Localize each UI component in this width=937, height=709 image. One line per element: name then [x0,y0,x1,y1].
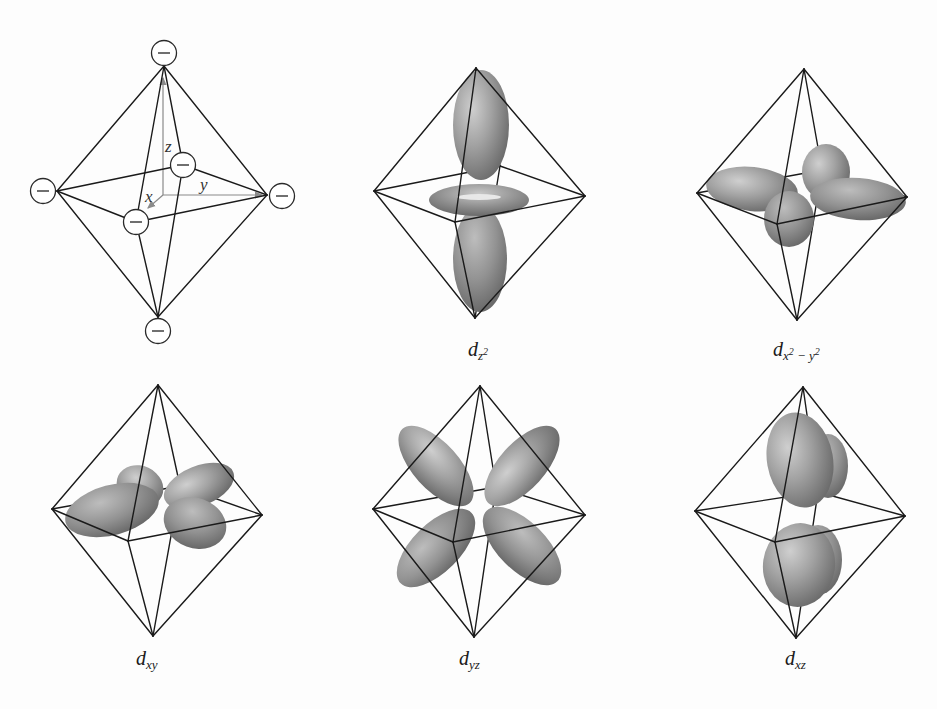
panel-dyz [373,386,585,637]
charge-right [270,184,295,209]
panel-dxz [695,387,905,638]
charge-left [31,179,56,204]
octahedron-back-edges [373,386,585,637]
label-dxy: dxy [136,647,158,673]
label-dxz: dxz [785,647,806,673]
dyz-orbital [384,413,575,600]
panel-dxy [52,385,262,636]
lobe-lower-left [384,496,489,601]
d-orbital-octahedral-diagram: z y x [0,0,937,709]
label-dx2-y2: dx2 − y2 [773,338,820,364]
panel-dz2 [374,68,585,318]
label-dyz: dyz [459,647,480,673]
z-axis-label: z [164,137,172,156]
x-axis-label: x [144,187,153,206]
dxz-orbital [758,407,848,612]
charge-back [171,153,196,178]
lobe-upper-left [385,413,486,518]
panel-ligand-charges: z y x [31,41,295,344]
charge-top [152,41,177,66]
lobe-lower [453,206,507,312]
charge-front [124,210,149,235]
panel-dx2-y2 [697,69,907,320]
lobe-front [764,191,814,247]
charge-bottom [146,319,171,344]
lobe-lower-right [470,494,575,599]
y-axis-label: y [198,175,208,194]
torus-hole [457,194,501,200]
octahedron-edges [57,66,267,317]
label-dz2: dz2 [468,338,488,364]
